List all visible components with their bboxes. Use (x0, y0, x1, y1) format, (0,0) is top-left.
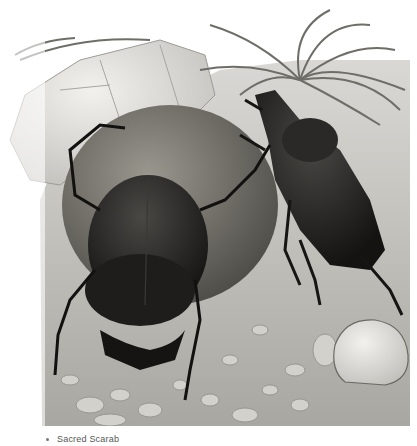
caption-text: Sacred Scarab (57, 434, 119, 444)
rock-lower-right (334, 320, 408, 385)
figure-caption: Sacred Scarab (46, 434, 119, 446)
scarab-illustration (0, 0, 417, 426)
bullet-icon (46, 438, 49, 441)
